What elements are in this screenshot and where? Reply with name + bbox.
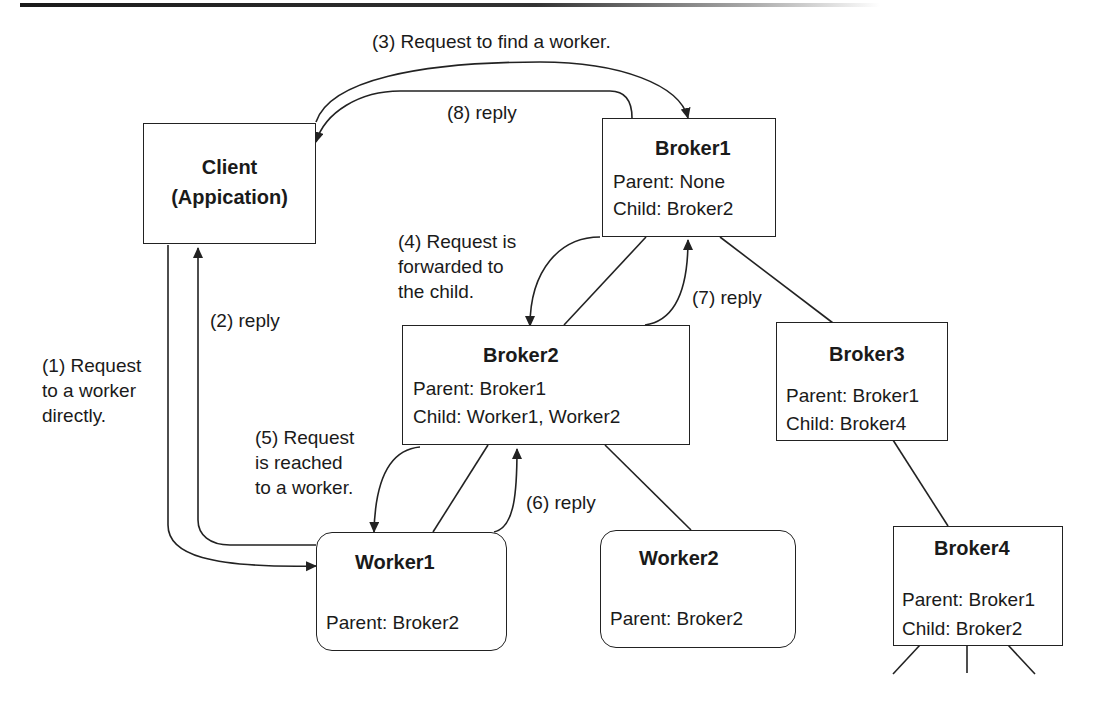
link-broker2-worker2: [605, 445, 691, 530]
step4-label: (4) Request is forwarded to the child.: [398, 229, 516, 304]
step1-label: (1) Request to a worker directly.: [42, 353, 141, 428]
link-broker2-worker1: [433, 445, 488, 532]
step5-line1: (5) Request: [255, 425, 354, 450]
link-broker4-child-c: [1008, 645, 1035, 674]
client-subtitle: (Appication): [144, 186, 315, 209]
broker3-title: Broker3: [829, 343, 905, 366]
broker3-parent: Parent: Broker1: [786, 385, 919, 407]
worker2-node: Worker2 Parent: Broker2: [600, 530, 796, 648]
step4-line2: forwarded to: [398, 254, 516, 279]
broker1-node: Broker1 Parent: None Child: Broker2: [602, 118, 776, 237]
worker1-node: Worker1 Parent: Broker2: [316, 532, 507, 651]
worker1-title: Worker1: [355, 551, 435, 574]
step6-label: (6) reply: [526, 490, 596, 515]
link-broker1-broker3: [720, 237, 833, 323]
arrow-step4: [530, 237, 600, 326]
step3-label: (3) Request to find a worker.: [372, 29, 611, 54]
client-title: Client: [144, 156, 315, 179]
step5-label: (5) Request is reached to a worker.: [255, 425, 354, 500]
broker4-node: Broker4 Parent: Broker1 Child: Broker2: [893, 526, 1063, 646]
broker1-title: Broker1: [655, 137, 731, 160]
broker2-title: Broker2: [483, 344, 559, 367]
broker1-parent: Parent: None: [613, 171, 725, 193]
arrow-step6: [494, 449, 517, 532]
client-node: Client (Appication): [143, 123, 316, 244]
worker2-parent: Parent: Broker2: [610, 608, 743, 630]
step8-label: (8) reply: [447, 100, 517, 125]
step4-line3: the child.: [398, 279, 516, 304]
step7-label: (7) reply: [692, 285, 762, 310]
broker1-child: Child: Broker2: [613, 198, 733, 220]
step1-line3: directly.: [42, 403, 141, 428]
broker3-node: Broker3 Parent: Broker1 Child: Broker4: [776, 322, 948, 441]
step5-line3: to a worker.: [255, 475, 354, 500]
arrow-step7: [645, 240, 688, 325]
arrow-step1: [168, 245, 316, 566]
link-broker1-broker2: [564, 237, 646, 325]
broker2-parent: Parent: Broker1: [413, 378, 546, 400]
step2-label: (2) reply: [210, 308, 280, 333]
broker2-child: Child: Worker1, Worker2: [413, 406, 620, 428]
broker4-parent: Parent: Broker1: [902, 589, 1035, 611]
step4-line1: (4) Request is: [398, 229, 516, 254]
link-broker4-child-a: [893, 645, 920, 674]
worker2-title: Worker2: [639, 547, 719, 570]
broker3-child: Child: Broker4: [786, 413, 906, 435]
broker4-title: Broker4: [934, 537, 1010, 560]
broker2-node: Broker2 Parent: Broker1 Child: Worker1, …: [402, 325, 690, 445]
step5-line2: is reached: [255, 450, 354, 475]
link-broker3-broker4: [893, 440, 948, 526]
broker4-child: Child: Broker2: [902, 618, 1022, 640]
worker1-parent: Parent: Broker2: [326, 612, 459, 634]
arrow-step5: [374, 447, 420, 532]
step1-line2: to a worker: [42, 378, 141, 403]
arrow-step2: [198, 248, 316, 545]
step1-line1: (1) Request: [42, 353, 141, 378]
